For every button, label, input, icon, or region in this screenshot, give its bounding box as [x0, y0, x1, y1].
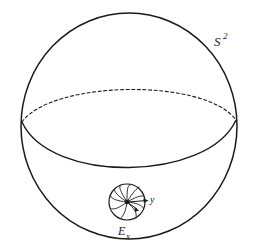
spiral-petal [127, 187, 140, 202]
y-axis-arrow-head [143, 198, 148, 202]
diagram-canvas: S 2 E x y [0, 0, 259, 251]
spiral-petal [111, 202, 127, 209]
field-label-subscript: x [125, 231, 130, 241]
sphere-label-exponent: 2 [223, 31, 228, 41]
spiral-petal [110, 196, 127, 202]
sphere-label: S [214, 34, 221, 49]
equator-back-dashed-arc [22, 89, 236, 122]
field-label: E [117, 224, 126, 238]
y-axis-label: y [149, 194, 155, 205]
x-axis-arrow-head [134, 208, 139, 212]
x-axis-arrow [127, 202, 139, 212]
equator-front-solid-arc [22, 120, 236, 168]
sphere-diagram-figure: S 2 E x y [0, 0, 259, 251]
sphere-outline [21, 13, 237, 239]
